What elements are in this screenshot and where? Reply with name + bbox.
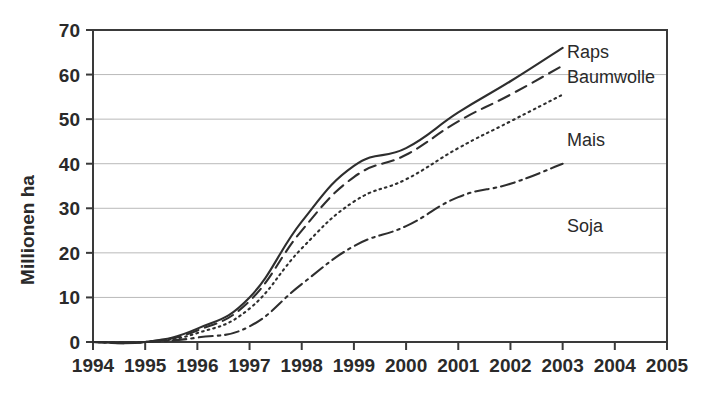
series-label-soja: Soja <box>567 216 604 236</box>
y-tick-label-30: 30 <box>59 198 80 219</box>
y-tick-label-20: 20 <box>59 243 80 264</box>
x-tick-label-1996: 1996 <box>176 355 218 376</box>
series-label-baumwolle: Baumwolle <box>567 67 655 87</box>
y-tick-label-40: 40 <box>59 154 80 175</box>
x-tick-label-1999: 1999 <box>333 355 375 376</box>
x-tick-label-2004: 2004 <box>594 355 637 376</box>
x-tick-label-1994: 1994 <box>72 355 115 376</box>
y-tick-label-60: 60 <box>59 65 80 86</box>
x-tick-label-1995: 1995 <box>124 355 167 376</box>
y-axis-title: Millionen ha <box>17 175 38 285</box>
x-tick-label-1998: 1998 <box>281 355 323 376</box>
line-chart-canvas: 010203040506070 199419951996199719981999… <box>0 0 714 402</box>
x-tick-label-1997: 1997 <box>228 355 270 376</box>
chart-figure: 010203040506070 199419951996199719981999… <box>0 0 714 402</box>
series-label-raps: Raps <box>567 42 609 62</box>
y-tick-label-10: 10 <box>59 287 80 308</box>
y-tick-label-50: 50 <box>59 109 80 130</box>
y-tick-label-0: 0 <box>69 332 80 353</box>
y-tick-label-70: 70 <box>59 20 80 41</box>
x-tick-label-2003: 2003 <box>541 355 583 376</box>
x-tick-label-2005: 2005 <box>646 355 689 376</box>
x-tick-label-2001: 2001 <box>437 355 480 376</box>
x-tick-label-2002: 2002 <box>489 355 531 376</box>
series-label-mais: Mais <box>567 130 605 150</box>
x-tick-label-2000: 2000 <box>385 355 427 376</box>
